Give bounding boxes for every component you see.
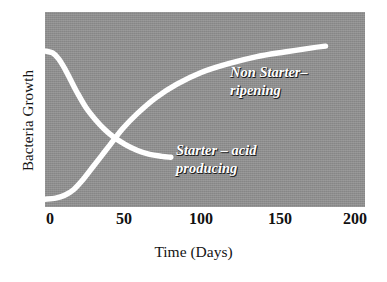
x-axis-title: Time (Days) [0, 243, 387, 261]
x-tick-100: 100 [171, 210, 231, 228]
plot-area: Non Starter– ripening Starter – acid pro… [45, 12, 365, 207]
x-tick-0: 0 [20, 210, 80, 228]
series-label-non-starter-line1: Non Starter– [230, 64, 308, 80]
x-tick-200: 200 [325, 210, 385, 228]
series-label-non-starter: Non Starter– ripening [230, 64, 308, 99]
x-tick-150: 150 [250, 210, 310, 228]
series-label-non-starter-line2: ripening [230, 82, 308, 100]
series-label-starter-line2: producing [176, 160, 257, 178]
x-tick-50: 50 [94, 210, 154, 228]
series-label-starter-line1: Starter – acid [176, 142, 257, 158]
series-label-starter: Starter – acid producing [176, 142, 257, 177]
chart-figure: Bacteria Growth Non Starter– ripening St… [0, 0, 387, 282]
y-axis-title: Bacteria Growth [20, 41, 37, 201]
x-axis-tick-labels: 0 50 100 150 200 [0, 210, 387, 234]
series-curves [45, 12, 365, 207]
